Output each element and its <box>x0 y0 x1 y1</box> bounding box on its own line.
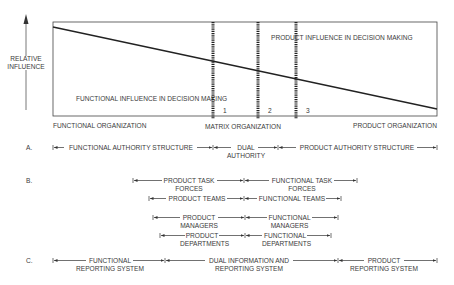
a-dual-line1: DUAL <box>224 144 268 152</box>
c-span2-line1: DUAL INFORMATION AND <box>203 257 295 265</box>
b-product-departments: PRODUCT DEPARTMENTS <box>180 232 224 248</box>
b-product-task-forces: PRODUCT TASK FORCES <box>160 177 218 193</box>
b-functional-departments: FUNCTIONAL DEPARTMENTS <box>262 232 308 248</box>
b-row4-right-line2: DEPARTMENTS <box>262 240 308 248</box>
section-b-letter: B. <box>26 177 32 185</box>
c-span3-line2: REPORTING SYSTEM <box>344 265 424 273</box>
y-axis-label: RELATIVE INFLUENCE <box>4 55 48 71</box>
c-functional-reporting: FUNCTIONAL REPORTING SYSTEM <box>70 257 150 273</box>
a-functional-authority: FUNCTIONAL AUTHORITY STRUCTURE <box>66 144 196 152</box>
product-influence-label: PRODUCT INFLUENCE IN DECISION MAKING <box>271 34 413 42</box>
c-span1-line1: FUNCTIONAL <box>70 257 150 265</box>
a-dual-line2: AUTHORITY <box>224 152 268 160</box>
a-dual-authority: DUAL AUTHORITY <box>224 144 268 160</box>
b-row3-left-line1: PRODUCT <box>180 214 218 222</box>
c-dual-reporting: DUAL INFORMATION AND REPORTING SYSTEM <box>203 257 295 273</box>
c-product-reporting: PRODUCT REPORTING SYSTEM <box>344 257 424 273</box>
c-span3-line1: PRODUCT <box>344 257 424 265</box>
b-product-teams: PRODUCT TEAMS <box>167 195 227 203</box>
y-axis-label-line2: INFLUENCE <box>4 63 48 71</box>
c-span1-line2: REPORTING SYSTEM <box>70 265 150 273</box>
b-row1-right-line2: FORCES <box>270 185 334 193</box>
a-product-authority: PRODUCT AUTHORITY STRUCTURE <box>298 144 416 152</box>
x-label-product: PRODUCT ORGANIZATION <box>353 122 437 130</box>
b-row4-left-line2: DEPARTMENTS <box>180 240 224 248</box>
b-row1-left-line1: PRODUCT TASK <box>160 177 218 185</box>
b-row3-right-line2: MANAGERS <box>267 222 312 230</box>
b-row3-left-line2: MANAGERS <box>180 222 218 230</box>
b-row1-right-line1: FUNCTIONAL TASK <box>270 177 334 185</box>
y-axis-label-line1: RELATIVE <box>4 55 48 63</box>
b-row4-right-line1: FUNCTIONAL <box>262 232 308 240</box>
functional-influence-label: FUNCTIONAL INFLUENCE IN DECISION MAKING <box>76 95 227 103</box>
b-product-managers: PRODUCT MANAGERS <box>180 214 218 230</box>
b-functional-teams: FUNCTIONAL TEAMS <box>258 195 326 203</box>
b-row3-right-line1: FUNCTIONAL <box>267 214 312 222</box>
b-row4-left-line1: PRODUCT <box>180 232 224 240</box>
x-label-functional: FUNCTIONAL ORGANIZATION <box>53 122 146 130</box>
c-span2-line2: REPORTING SYSTEM <box>203 265 295 273</box>
marker-2: 2 <box>268 107 272 115</box>
marker-3: 3 <box>306 107 310 115</box>
section-a-letter: A. <box>26 144 32 152</box>
section-c-letter: C. <box>26 257 33 265</box>
b-row1-left-line2: FORCES <box>160 185 218 193</box>
x-label-matrix: MATRIX ORGANIZATION <box>205 123 281 131</box>
b-functional-task-forces: FUNCTIONAL TASK FORCES <box>270 177 334 193</box>
b-functional-managers: FUNCTIONAL MANAGERS <box>267 214 312 230</box>
marker-1: 1 <box>223 107 227 115</box>
